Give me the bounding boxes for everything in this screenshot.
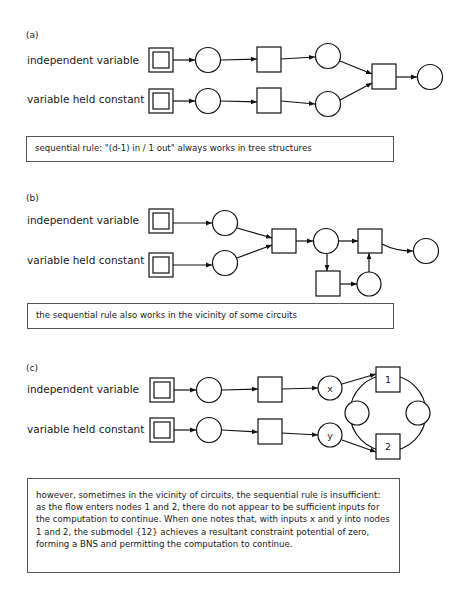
variable-node-icon bbox=[196, 48, 221, 73]
variable-node-icon bbox=[316, 92, 341, 117]
variable-node-icon bbox=[197, 378, 222, 403]
network-diagrams: x y 1 2 bbox=[0, 0, 457, 599]
diagram-b bbox=[149, 209, 439, 296]
constraint-node-icon bbox=[272, 229, 296, 253]
constraint-node-icon bbox=[258, 377, 282, 402]
variable-node-icon bbox=[196, 89, 221, 114]
input-node-icon bbox=[149, 89, 173, 113]
input-node-icon bbox=[149, 48, 173, 72]
constraint-node-icon bbox=[372, 64, 396, 89]
constraint-node-icon bbox=[257, 88, 281, 113]
input-node-icon bbox=[149, 209, 173, 233]
variable-node-icon bbox=[316, 44, 341, 69]
input-node-icon bbox=[149, 253, 173, 277]
variable-node-icon bbox=[213, 251, 238, 276]
constraint-node-icon bbox=[258, 419, 282, 444]
constraint-node-icon bbox=[257, 47, 281, 72]
variable-node-icon bbox=[197, 418, 222, 443]
input-node-icon bbox=[150, 418, 174, 442]
node-1-label: 1 bbox=[385, 374, 391, 385]
input-node-icon bbox=[150, 378, 174, 402]
node-x-label: x bbox=[327, 383, 333, 394]
constraint-node-icon bbox=[316, 271, 340, 296]
output-variable-node-icon bbox=[414, 239, 439, 264]
variable-node-icon bbox=[213, 211, 238, 236]
node-2-label: 2 bbox=[385, 441, 391, 452]
constraint-node-icon bbox=[358, 229, 382, 253]
variable-node-icon bbox=[314, 229, 339, 254]
variable-node-icon bbox=[357, 272, 381, 296]
diagram-a bbox=[149, 44, 443, 117]
node-y-label: y bbox=[327, 430, 333, 441]
output-variable-node-icon bbox=[418, 65, 443, 90]
variable-node-icon bbox=[345, 401, 369, 425]
variable-node-icon bbox=[406, 401, 430, 425]
